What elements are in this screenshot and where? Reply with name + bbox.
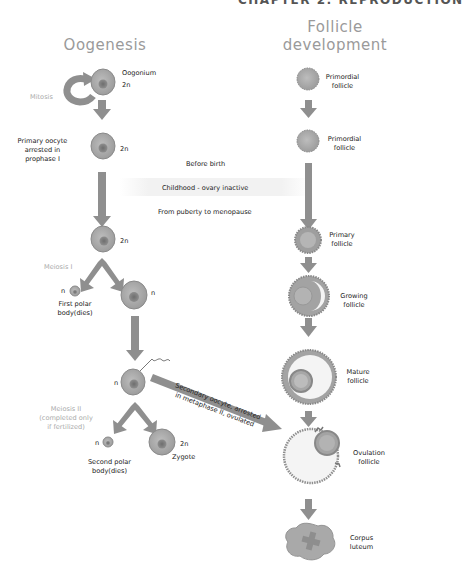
- primary-oocyte-cell: [91, 133, 115, 159]
- secondary-oocyte-ploidy: n: [114, 379, 118, 388]
- follicle-5-line1: Mature: [338, 368, 378, 377]
- arrow-oogonium-to-primary: [93, 100, 111, 120]
- meiosis2-label: Meiosis II (completed only if fertilized…: [36, 405, 96, 432]
- follicle-7-line2: luteum: [344, 543, 379, 552]
- childhood-label: Childhood - ovary inactive: [162, 184, 248, 193]
- growing-follicle: [289, 276, 329, 316]
- zygote-cell: [149, 429, 175, 455]
- follicle-label-4: Growing follicle: [334, 292, 374, 310]
- primary-oocyte-label: Primary oocyte arrested in prophase I: [10, 137, 75, 164]
- primary-oocyte-line2: arrested in: [10, 146, 75, 155]
- oogonium-ploidy: 2n: [122, 81, 130, 90]
- follicle-3-line2: follicle: [322, 240, 362, 249]
- oogonium-label: Oogonium: [122, 69, 156, 78]
- oogonium-cell: [91, 69, 115, 95]
- follicle-label-6: Ovulation follicle: [348, 449, 390, 467]
- secondary-cell: [121, 281, 147, 309]
- mature-follicle: [282, 350, 336, 404]
- primary-oocyte-ploidy: 2n: [120, 145, 128, 154]
- second-polar-body-label: Second polar body(dies): [82, 458, 137, 476]
- follicle-4-line2: follicle: [334, 301, 374, 310]
- first-polar-body-label: First polar body(dies): [50, 300, 100, 318]
- corpus-luteum: [286, 523, 335, 560]
- arrow-meiosis1-split: [80, 258, 124, 292]
- secondary-oocyte-cell: [121, 369, 145, 395]
- follicle-6-line2: follicle: [348, 458, 390, 467]
- primary-follicle: [295, 227, 321, 253]
- second-polar-body-cell: [103, 437, 113, 447]
- meiosis2-line2: (completed only: [36, 414, 96, 423]
- follicle-7-line1: Corpus: [344, 534, 379, 543]
- arrow-secondary-to-oocyte: [126, 316, 144, 361]
- follicle-2-line1: Primordial: [322, 135, 367, 144]
- first-polar-body-line1: First polar: [50, 300, 100, 309]
- follicle-label-3: Primary follicle: [322, 231, 362, 249]
- ovulation-follicle: [284, 427, 340, 483]
- follicle-label-5: Mature follicle: [338, 368, 378, 386]
- follicle-5-line2: follicle: [338, 377, 378, 386]
- primary-oocyte-line3: prophase I: [10, 155, 75, 164]
- follicle-1-line2: follicle: [320, 82, 365, 91]
- follicle-1-line1: Primordial: [320, 73, 365, 82]
- puberty-label: From puberty to menopause: [158, 208, 252, 217]
- secondary-cell-ploidy: n: [151, 289, 155, 298]
- meiosis2-line3: if fertilized): [36, 423, 96, 432]
- follicle-4-line1: Growing: [334, 292, 374, 301]
- follicle-3-line1: Primary: [322, 231, 362, 240]
- arrow-meiosis2-split: [113, 402, 157, 434]
- meiosis2-line1: Meiosis II: [36, 405, 96, 414]
- first-polar-body-ploidy: n: [61, 287, 65, 296]
- primary-oocyte-2-ploidy: 2n: [120, 237, 128, 246]
- second-polar-body-ploidy: n: [95, 439, 99, 448]
- sperm: [140, 359, 170, 371]
- follicle-label-1: Primordial follicle: [320, 73, 365, 91]
- follicle-label-2: Primordial follicle: [322, 135, 367, 153]
- primordial-follicle-2: [297, 130, 319, 152]
- before-birth-label: Before birth: [186, 160, 225, 169]
- first-polar-body-cell: [70, 286, 80, 296]
- second-polar-body-line1: Second polar: [82, 458, 137, 467]
- arrow-primary-to-puberty: [93, 172, 111, 227]
- second-polar-body-line2: body(dies): [82, 467, 137, 476]
- zygote-ploidy: 2n: [180, 440, 188, 449]
- meiosis1-label: Meiosis I: [44, 263, 72, 272]
- follicle-2-line2: follicle: [322, 144, 367, 153]
- primary-oocyte-line1: Primary oocyte: [10, 137, 75, 146]
- follicle-6-line1: Ovulation: [348, 449, 390, 458]
- primordial-follicle-1: [297, 68, 319, 90]
- primary-oocyte-cell-2: [91, 226, 115, 252]
- mitosis-label: Mitosis: [30, 93, 53, 102]
- first-polar-body-line2: body(dies): [50, 309, 100, 318]
- follicle-label-7: Corpus luteum: [344, 534, 379, 552]
- zygote-label: Zygote: [172, 453, 195, 462]
